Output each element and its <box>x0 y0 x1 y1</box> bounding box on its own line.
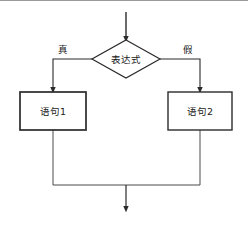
edge-false-merge <box>126 130 200 185</box>
false-statement-label: 语句2 <box>187 106 213 117</box>
flowchart-svg: 表达式 语句1 语句2 真 假 <box>0 0 248 225</box>
true-branch-label: 真 <box>58 44 68 55</box>
edge-false-branch <box>160 59 200 90</box>
edge-true-merge <box>53 130 126 185</box>
decision-node-label: 表达式 <box>111 54 141 65</box>
edge-true-branch <box>53 59 93 90</box>
flowchart-canvas: 表达式 语句1 语句2 真 假 <box>0 0 248 225</box>
true-statement-label: 语句1 <box>40 106 66 117</box>
false-branch-label: 假 <box>183 44 193 55</box>
